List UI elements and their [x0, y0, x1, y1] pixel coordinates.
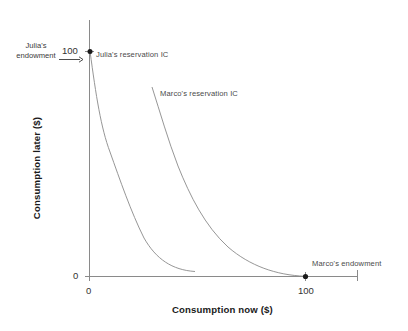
- right-arrow-icon: [59, 49, 84, 56]
- y-axis-title-wrapper: Consumption later ($): [28, 108, 46, 228]
- marco-endowment-point: [303, 274, 308, 279]
- marco-endowment-label: Marco's endowment: [312, 260, 381, 269]
- x-tick-label-100: 100: [298, 285, 314, 296]
- x-axis-title: Consumption now ($): [172, 304, 273, 315]
- marco-reservation-ic-label: Marco's reservation IC: [160, 90, 238, 99]
- julia-endowment-callout-text: Julia's endowment: [13, 41, 59, 62]
- julia-reservation-ic-curve: [90, 51, 195, 272]
- julia-endowment-callout: Julia's endowment: [13, 41, 99, 63]
- y-axis-title: Consumption later ($): [31, 117, 42, 219]
- x-tick-label-0: 0: [86, 285, 91, 296]
- marco-reservation-ic-curve: [152, 87, 305, 276]
- y-tick-label-0: 0: [73, 270, 78, 281]
- julia-endowment-line-2: endowment: [13, 51, 59, 61]
- julia-endowment-line-1: Julia's: [13, 41, 59, 51]
- julia-reservation-ic-label: Julia's reservation IC: [96, 51, 168, 60]
- chart-figure: 100 0 0 100 Julia's endowment Julia's re…: [0, 0, 408, 331]
